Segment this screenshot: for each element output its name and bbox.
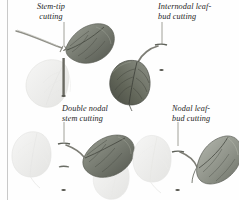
- side-branch-stem-tip: [16, 31, 62, 48]
- cuttings-figure: Stem-tip cutting Internodal leaf- bud cu…: [0, 0, 239, 200]
- stem-cut-end: [61, 95, 65, 97]
- label-double-nodal-stem-cutting: Double nodal stem cutting: [62, 104, 148, 124]
- stem-cut-end-internodal: [159, 69, 163, 71]
- petiole-nodal: [180, 152, 197, 167]
- petiole-internodal: [138, 46, 158, 62]
- dark-leaf-nodal: [192, 136, 239, 184]
- ghost-leaf-double-left: [12, 132, 51, 188]
- stem-cut-end-nodal: [175, 189, 180, 191]
- label-nodal-leaf-bud-cutting: Nodal leaf- bud cutting: [172, 104, 234, 124]
- label-internodal-leaf-bud-cutting: Internodal leaf- bud cutting: [158, 2, 236, 22]
- specimen-double-nodal: [12, 122, 134, 199]
- dark-leaf-stem-tip: [66, 24, 114, 63]
- illustration-canvas: [0, 0, 239, 200]
- specimen-stem-tip: [16, 22, 114, 107]
- petiole-double-nodal: [66, 145, 84, 157]
- ghost-leaf-nodal: [133, 135, 171, 193]
- stem-cut-end-double: [61, 189, 66, 191]
- label-stem-tip-cutting: Stem-tip cutting: [18, 2, 84, 22]
- specimen-internodal: [110, 22, 167, 111]
- specimen-nodal: [133, 122, 239, 193]
- lower-node-double: [59, 166, 69, 167]
